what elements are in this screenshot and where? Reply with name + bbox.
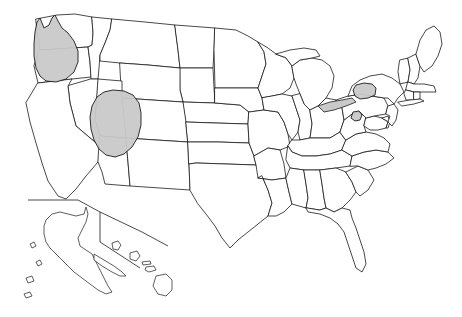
us-map-figure (0, 0, 462, 317)
state-montana[interactable] (100, 19, 180, 68)
contiguous-states-group (26, 14, 442, 272)
state-kansas[interactable] (186, 122, 249, 143)
inset-hawaii-molokai[interactable] (142, 261, 151, 265)
inset-alaska[interactable] (24, 207, 112, 298)
state-maine[interactable] (416, 26, 442, 72)
state-south-dakota[interactable] (180, 68, 215, 103)
state-arkansas[interactable] (254, 148, 286, 180)
state-florida[interactable] (306, 208, 366, 272)
us-map-svg (0, 0, 462, 317)
state-oklahoma[interactable] (188, 142, 256, 165)
inset-hawaii-oahu[interactable] (130, 251, 140, 261)
state-connecticut[interactable] (404, 90, 414, 100)
state-minnesota[interactable] (214, 28, 266, 88)
west-virginia-panhandle-region[interactable] (351, 111, 362, 121)
inset-hawaii-kauai[interactable] (112, 241, 121, 250)
inset-hawaii-big-island[interactable] (153, 274, 172, 296)
inset-hawaii-maui[interactable] (145, 266, 156, 272)
state-massachusetts[interactable] (406, 82, 436, 92)
long-island[interactable] (398, 99, 424, 106)
inset-maps-group (24, 200, 172, 298)
state-new-mexico[interactable] (126, 138, 190, 190)
state-north-dakota[interactable] (175, 25, 215, 68)
